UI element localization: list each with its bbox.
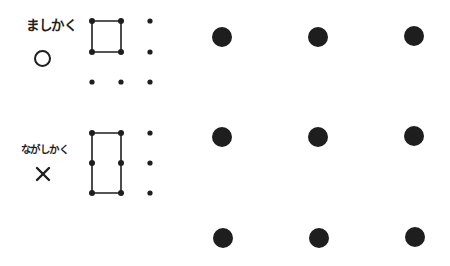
diagram-canvas bbox=[0, 0, 450, 266]
rectangle-outline bbox=[92, 133, 121, 193]
dot[interactable] bbox=[405, 227, 425, 247]
dot[interactable] bbox=[212, 27, 232, 47]
dot[interactable] bbox=[212, 127, 232, 147]
dot[interactable] bbox=[308, 127, 328, 147]
rectangle-example-grid bbox=[89, 130, 153, 196]
puzzle-dot-grid bbox=[212, 26, 425, 248]
dot[interactable] bbox=[404, 126, 424, 146]
dot[interactable] bbox=[308, 27, 328, 47]
dot[interactable] bbox=[404, 26, 424, 46]
dot[interactable] bbox=[309, 228, 329, 248]
square-example-grid bbox=[89, 18, 153, 85]
square-outline bbox=[92, 21, 121, 52]
dot[interactable] bbox=[213, 228, 233, 248]
